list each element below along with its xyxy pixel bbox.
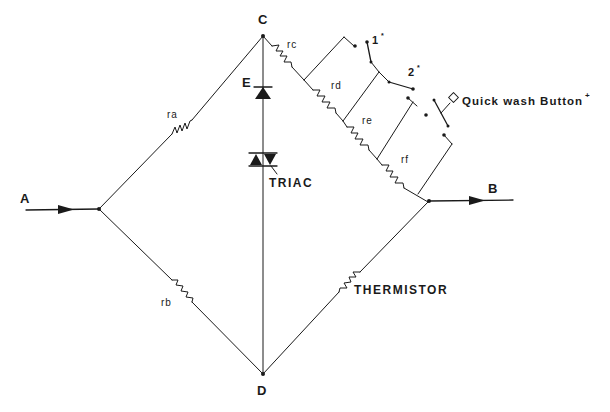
switch-2-label: 2	[408, 66, 414, 78]
resistor-label-rb: rb	[161, 297, 172, 308]
node-label-c: C	[258, 12, 268, 27]
resistor-label-re: re	[362, 115, 373, 126]
resistor-rf	[377, 159, 428, 202]
switch-network	[304, 37, 458, 194]
thermistor-label: THERMISTOR	[354, 283, 448, 297]
quickwash-button-label: Quick wash Button	[462, 95, 583, 107]
node-label-b: B	[488, 181, 497, 196]
resistor-re	[343, 121, 377, 159]
resistor-label-ra: ra	[167, 109, 178, 120]
circuit-diagram: A ra rb C E TRIAC D rc	[0, 0, 610, 412]
switch-2-mark: *	[417, 64, 420, 71]
node-label-d: D	[257, 383, 266, 398]
triac-label: TRIAC	[269, 176, 313, 190]
resistor-rb	[99, 209, 263, 374]
resistor-label-rf: rf	[401, 154, 409, 165]
resistor-label-rd: rd	[331, 80, 342, 91]
node-label-e: E	[242, 75, 251, 90]
switch-1-mark: *	[381, 32, 384, 39]
arrow-right-icon	[58, 205, 74, 214]
switch-1-label: 1	[372, 34, 378, 46]
diode-icon	[254, 87, 272, 99]
resistor-ra	[99, 36, 263, 209]
output-b-wire	[429, 196, 513, 205]
resistor-label-rc: rc	[287, 39, 297, 50]
resistor-rc	[263, 36, 304, 80]
quickwash-button-mark: +	[585, 91, 590, 100]
node-label-a: A	[20, 191, 30, 206]
arrow-right-icon	[469, 196, 485, 205]
input-a-wire	[26, 205, 99, 214]
